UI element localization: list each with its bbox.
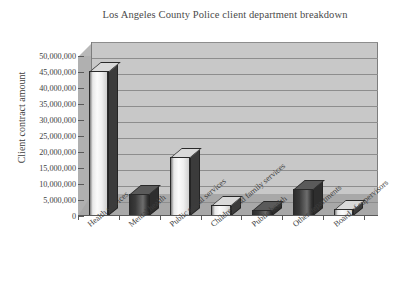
plot-back-wall-right-edge	[377, 42, 378, 194]
bar	[89, 71, 109, 216]
x-axis-tick-mark	[119, 215, 120, 220]
y-axis-tick-label: 40,000,000	[39, 84, 76, 93]
y-axis-tick-label: 20,000,000	[39, 148, 76, 157]
y-axis-tick-mark	[78, 184, 84, 185]
chart-title: Los Angeles County Police client departm…	[60, 9, 390, 20]
y-axis-tick-mark	[78, 136, 84, 137]
x-axis-tick-mark	[364, 215, 365, 220]
y-axis-tick-label: 0	[72, 212, 76, 221]
gridline	[92, 122, 378, 123]
y-axis-tick-label: 5,000,000	[43, 196, 76, 205]
x-axis-tick-mark	[241, 215, 242, 220]
gridline	[92, 58, 378, 59]
y-axis-ticks: 50,000,00045,000,00040,000,00035,000,000…	[0, 0, 76, 304]
y-axis-tick-label: 30,000,000	[39, 116, 76, 125]
y-axis-tick-mark	[78, 56, 84, 57]
x-axis-tick-mark	[160, 215, 161, 220]
y-axis-tick-mark	[78, 152, 84, 153]
bar-chart: Los Angeles County Police client departm…	[0, 0, 406, 304]
gridline	[92, 90, 378, 91]
x-axis-tick-mark	[201, 215, 202, 220]
x-axis-tick-mark	[323, 215, 324, 220]
gridline	[92, 138, 378, 139]
y-axis-tick-mark	[78, 72, 84, 73]
y-axis-tick-label: 45,000,000	[39, 68, 76, 77]
y-axis-tick-label: 15,000,000	[39, 164, 76, 173]
y-axis-tick-label: 35,000,000	[39, 100, 76, 109]
gridline	[92, 42, 378, 43]
gridline	[92, 106, 378, 107]
bar-front-face	[89, 71, 109, 216]
gridline	[92, 154, 378, 155]
y-axis-tick-mark	[78, 216, 84, 217]
y-axis-tick-mark	[78, 104, 84, 105]
y-axis-tick-mark	[78, 200, 84, 201]
y-axis-tick-label: 50,000,000	[39, 52, 76, 61]
y-axis-tick-mark	[78, 120, 84, 121]
y-axis-tick-mark	[78, 168, 84, 169]
y-axis-tick-label: 10,000,000	[39, 180, 76, 189]
gridline	[92, 74, 378, 75]
x-axis-tick-mark	[282, 215, 283, 220]
gridline	[92, 170, 378, 171]
bar-side-face	[108, 63, 118, 216]
y-axis-tick-label: 25,000,000	[39, 132, 76, 141]
y-axis-tick-mark	[78, 88, 84, 89]
